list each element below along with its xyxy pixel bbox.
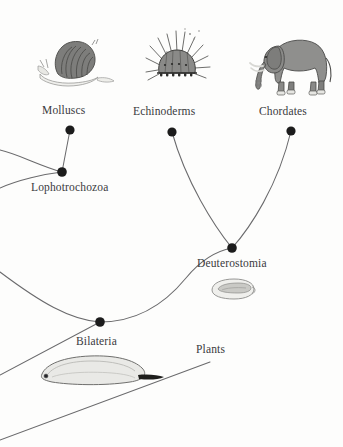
branch-deuterostomia-chordates — [232, 131, 291, 248]
sea-urchin-illustration — [146, 28, 210, 80]
phylogenetic-tree-figure: Molluscs Echinoderms Chordates Lophotroc… — [0, 0, 343, 447]
node-dot-deuterostomia[interactable] — [227, 243, 237, 253]
branch-deuterostomia-echinoderms — [172, 132, 232, 248]
snail-illustration — [38, 39, 114, 86]
branch-lophotrochozoa-molluscs — [62, 130, 70, 172]
branch-bilateria-upper-left — [0, 272, 100, 322]
label-bilateria: Bilateria — [76, 336, 117, 348]
label-echinoderms: Echinoderms — [133, 106, 195, 118]
elephant-illustration — [250, 40, 331, 95]
larva-illustration — [212, 279, 255, 299]
label-plants: Plants — [196, 344, 225, 356]
tree-branches-svg — [0, 0, 343, 447]
node-dot-lophotrochozoa[interactable] — [57, 167, 67, 177]
label-chordates: Chordates — [259, 106, 307, 118]
label-lophotrochozoa: Lophotrochozoa — [31, 182, 108, 194]
node-dot-chordates[interactable] — [286, 126, 295, 135]
node-dot-bilateria[interactable] — [95, 317, 105, 327]
branch-lophotrochozoa-left-upper — [0, 150, 62, 172]
node-dot-echinoderms[interactable] — [167, 127, 176, 136]
label-molluscs: Molluscs — [42, 105, 85, 117]
label-deuterostomia: Deuterostomia — [197, 258, 267, 270]
flatworm-illustration — [41, 356, 164, 385]
node-dot-molluscs[interactable] — [65, 125, 74, 134]
